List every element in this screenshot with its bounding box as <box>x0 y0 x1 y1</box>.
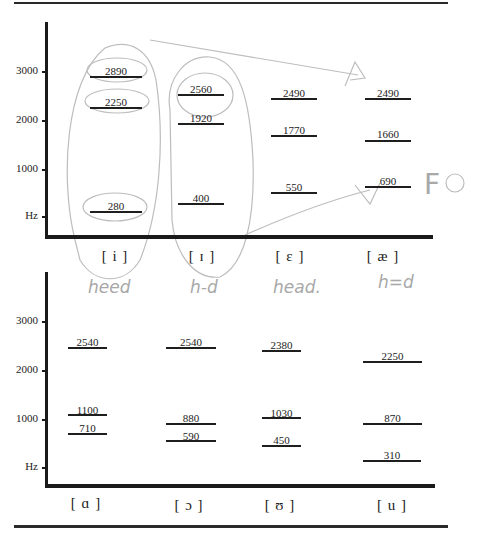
o-f2-bar <box>166 423 216 425</box>
handwritten-head: head. <box>273 277 321 297</box>
uh-f1-bar <box>262 445 301 447</box>
top-tick-label-2000: 2000 <box>0 113 38 125</box>
u-f2-bar <box>363 423 422 425</box>
top-tick-label-3000: 3000 <box>0 64 38 76</box>
top-vowel-eh: [ ɛ ] <box>260 248 320 265</box>
bottom-tick-3000 <box>42 321 48 323</box>
a-f3-bar <box>68 347 107 349</box>
handwritten-hid: h-d <box>190 277 218 297</box>
top-vowel-ae: [ æ ] <box>353 248 413 265</box>
ae-f1-bar <box>365 186 411 188</box>
uh-f2-bar <box>262 417 301 419</box>
top-tick-hz <box>42 216 48 218</box>
i-f1-bar <box>90 211 142 213</box>
bottom-tick-label-2000: 2000 <box>0 363 38 375</box>
bottom-rule <box>14 525 448 528</box>
top-tick-2000 <box>42 120 48 122</box>
top-tick-3000 <box>42 71 48 73</box>
eh-f1-bar <box>271 192 317 194</box>
top-vowel-ih: [ ɪ ] <box>172 248 232 265</box>
ih-f1-bar <box>178 203 224 205</box>
bottom-tick-hz <box>42 467 48 469</box>
u-f1-bar <box>363 460 421 462</box>
handwritten-had: h=d <box>378 272 414 292</box>
bottom-tick-2000 <box>42 370 48 372</box>
bottom-vowel-o: [ ɔ ] <box>159 497 219 514</box>
o-f1-bar <box>166 440 216 442</box>
ae-f2-label: 1660 <box>365 128 411 140</box>
bottom-y-axis <box>45 272 48 488</box>
ih-f3-bar <box>178 94 224 96</box>
top-tick-label-1000: 1000 <box>0 162 38 174</box>
a-f1-bar <box>68 433 107 435</box>
eh-f3-bar <box>271 98 317 100</box>
eh-f2-bar <box>271 135 317 137</box>
top-y-axis <box>45 22 48 238</box>
u-f3-bar <box>363 361 422 363</box>
top-rule <box>14 2 448 4</box>
uh-f3-bar <box>262 350 301 352</box>
bottom-vowel-u: [ u ] <box>362 497 422 514</box>
bottom-tick-1000 <box>42 419 48 421</box>
top-tick-1000 <box>42 169 48 171</box>
a-f2-bar <box>68 414 107 416</box>
ae-f3-bar <box>365 98 411 100</box>
i-f2-bar <box>90 107 142 109</box>
bottom-tick-label-hz: Hz <box>0 460 38 472</box>
bottom-x-axis <box>45 484 435 488</box>
o-f3-bar <box>166 347 216 349</box>
top-tick-label-hz: Hz <box>0 209 38 221</box>
bottom-tick-label-1000: 1000 <box>0 412 38 424</box>
handwritten-f1-note: F <box>424 168 440 201</box>
bottom-vowel-uh: [ ʊ ] <box>250 497 310 514</box>
ih-f2-bar <box>178 123 224 125</box>
handwritten-heed: heed <box>88 277 130 297</box>
top-vowel-i: [ i ] <box>85 248 145 265</box>
ae-f2-bar <box>365 140 411 142</box>
i-f3-bar <box>90 76 142 78</box>
bottom-tick-label-3000: 3000 <box>0 314 38 326</box>
top-x-axis <box>45 235 433 239</box>
bottom-vowel-a: [ ɑ ] <box>56 495 116 512</box>
